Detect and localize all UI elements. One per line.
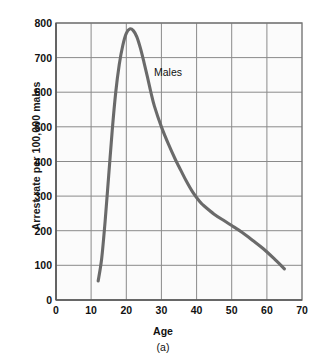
x-tick-70: 70 [285,305,319,316]
series-annotation-males: Males [154,66,182,78]
x-tick-60: 60 [250,305,284,316]
y-tick-300: 300 [22,191,52,202]
x-axis-title: Age [0,325,326,337]
x-tick-30: 30 [144,305,178,316]
y-tick-600: 600 [22,87,52,98]
x-tick-20: 20 [109,305,143,316]
figure-caption: (a) [0,341,326,353]
y-tick-800: 800 [22,18,52,29]
x-tick-10: 10 [74,305,108,316]
x-tick-40: 40 [180,305,214,316]
y-tick-200: 200 [22,226,52,237]
y-tick-0: 0 [22,295,52,306]
y-tick-100: 100 [22,260,52,271]
x-tick-50: 50 [215,305,249,316]
figure-arrest-rate-by-age: Arrest rate per 100,000 males [0,0,326,361]
y-tick-700: 700 [22,53,52,64]
x-tick-0: 0 [39,305,73,316]
y-tick-500: 500 [22,122,52,133]
y-tick-400: 400 [22,157,52,168]
